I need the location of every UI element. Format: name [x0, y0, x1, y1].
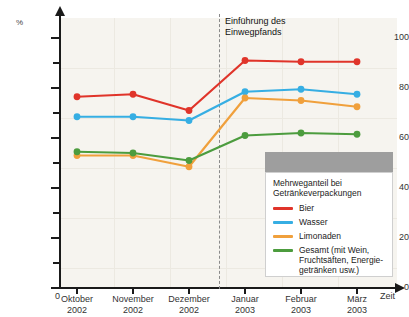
legend-header-bar — [265, 152, 393, 172]
page-edge-artifact — [0, 308, 409, 317]
legend-color-swatch — [273, 207, 293, 210]
legend: Mehrweganteil bei Getränkeverpackungen B… — [265, 172, 393, 277]
data-point-marker — [298, 86, 305, 93]
data-point-marker — [186, 117, 193, 124]
data-point-marker — [186, 163, 193, 170]
data-point-marker — [354, 91, 361, 98]
data-point-marker — [130, 150, 137, 157]
data-point-marker — [186, 157, 193, 164]
legend-color-swatch — [273, 235, 293, 238]
data-point-marker — [298, 130, 305, 137]
data-point-marker — [74, 93, 81, 100]
data-point-marker — [186, 107, 193, 114]
data-point-marker — [74, 113, 81, 120]
data-point-marker — [242, 88, 249, 95]
legend-entry-label: Gesamt (mit Wein, Fruchtsäften, Energie-… — [299, 245, 383, 275]
data-point-marker — [354, 58, 361, 65]
legend-entry-label: Limonaden — [299, 231, 341, 241]
chart-container: % 020406080100 Oktober2002November2002De… — [0, 0, 409, 317]
data-point-marker — [298, 97, 305, 104]
data-point-marker — [354, 103, 361, 110]
data-point-marker — [354, 131, 361, 138]
legend-title: Mehrweganteil bei Getränkeverpackungen — [273, 178, 386, 198]
legend-entry-group: BierWasserLimonadenGesamt (mit Wein, Fru… — [273, 203, 386, 275]
data-point-marker — [242, 95, 249, 102]
data-point-marker — [74, 148, 81, 155]
data-point-marker — [130, 91, 137, 98]
data-point-marker — [298, 58, 305, 65]
legend-entry-label: Wasser — [299, 217, 328, 227]
legend-entry-label: Bier — [299, 203, 314, 213]
data-point-marker — [130, 113, 137, 120]
data-point-marker — [242, 132, 249, 139]
data-point-marker — [242, 57, 249, 64]
legend-entry: Limonaden — [273, 231, 386, 241]
legend-entry: Gesamt (mit Wein, Fruchtsäften, Energie-… — [273, 245, 386, 275]
legend-color-swatch — [273, 249, 293, 252]
legend-color-swatch — [273, 221, 293, 224]
legend-entry: Bier — [273, 203, 386, 213]
legend-entry: Wasser — [273, 217, 386, 227]
